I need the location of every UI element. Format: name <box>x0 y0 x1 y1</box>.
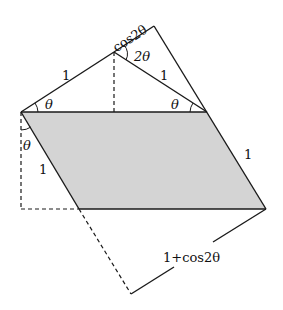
label-right-base-angle: θ <box>171 97 179 112</box>
left-base-angle-arc <box>35 103 38 112</box>
left-vertical-angle-arc <box>21 127 31 130</box>
label-parallelogram-right-side: 1 <box>244 147 252 162</box>
diagram-canvas: 1 1 cos2θ 2θ θ θ θ 1 1 1+cos2θ <box>0 0 283 310</box>
label-top-right-side: 1 <box>160 68 168 83</box>
right-base-angle-arc <box>190 103 193 112</box>
label-left-base-angle: θ <box>45 97 53 112</box>
label-top-left-side: 1 <box>62 68 70 83</box>
label-bottom-diagonal: 1+cos2θ <box>163 250 220 265</box>
lower-diagonal-dashed <box>79 209 131 294</box>
label-parallelogram-left-side: 1 <box>39 162 47 177</box>
shaded-parallelogram <box>21 112 266 209</box>
label-left-vertical-angle: θ <box>23 138 31 153</box>
bottom-segment-left <box>131 267 174 294</box>
label-apex-angle: 2θ <box>133 49 150 64</box>
bottom-segment-right <box>213 209 266 242</box>
